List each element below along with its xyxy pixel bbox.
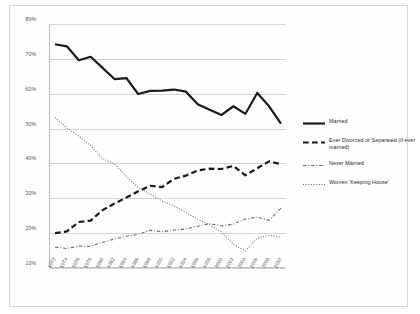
y-axis-label: 50% [14,121,36,127]
legend-label: Ever Divorced or Separated (if ever marr… [329,137,420,151]
legend-item: Married [303,118,420,128]
series-lines [50,24,286,268]
y-axis-label: 80% [14,16,36,22]
series-line-ever-divorced-or-separated-if-ever-married [55,161,281,233]
y-axis-label: 30% [14,190,36,196]
chart-frame: 80%70%60%50%40%30%20%10% 197219741976197… [9,5,408,307]
series-line-married [55,44,281,123]
y-axis-label: 20% [14,225,36,231]
y-axis-label: 40% [14,155,36,161]
legend-label: Women 'Keeping House' [329,179,389,186]
chart-legend: MarriedEver Divorced or Separated (if ev… [303,118,420,198]
chart-figure: 80%70%60%50%40%30%20%10% 197219741976197… [0,0,420,314]
dotted-thin-line-key [303,180,325,189]
dashed-thick-line-key [303,138,325,147]
plot-area [49,24,285,268]
legend-item: Ever Divorced or Separated (if ever marr… [303,137,420,151]
legend-item: Never Married [303,160,420,170]
series-line-never-married [55,208,281,248]
legend-label: Married [329,118,348,125]
y-axis-label: 10% [14,260,36,266]
solid-thick-line-key [303,119,325,128]
y-axis-label: 60% [14,86,36,92]
dashdot-thin-line-key [303,161,325,170]
y-axis-label: 70% [14,51,36,57]
legend-item: Women 'Keeping House' [303,179,420,189]
legend-label: Never Married [329,160,364,167]
